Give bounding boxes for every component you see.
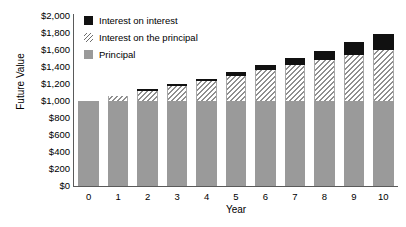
bar-group [373,16,394,186]
bar-segment-interest-on-interest [344,42,365,55]
stacked-bar[interactable] [196,79,217,186]
bar-segment-principal [137,101,158,186]
bar-segment-principal [78,101,99,186]
y-axis-tick-label: $1,400 [22,62,70,72]
y-axis-tick-label: $1,200 [22,79,70,89]
bar-segment-principal [226,101,247,186]
bar-segment-principal [373,101,394,186]
bar-segment-interest-on-principal [255,70,276,101]
y-axis-tick-label: $2,000 [22,11,70,21]
stacked-bar[interactable] [137,89,158,186]
bar-segment-interest-on-principal [314,60,335,101]
y-axis-tick-label: $400 [22,147,70,157]
bar-segment-principal [285,101,306,186]
bar-group [285,16,306,186]
bar-segment-principal [108,101,129,186]
legend-swatch-interest-on-interest [84,16,93,25]
bar-segment-principal [196,101,217,186]
x-axis-tick-label: 9 [351,190,356,203]
y-axis-tick-labels: $0$200$400$600$800$1,000$1,200$1,400$1,6… [22,16,70,186]
x-axis-tick-label: 2 [145,190,150,203]
legend-item: Principal [84,46,198,63]
bar-segment-principal [314,101,335,186]
legend-item-label: Interest on interest [99,16,178,26]
bar-segment-interest-on-principal [344,55,365,101]
bar-segment-interest-on-principal [196,81,217,101]
bar-segment-interest-on-principal [373,50,394,101]
y-axis-tick-label: $1,000 [22,96,70,106]
legend-item-label: Interest on the principal [99,33,198,43]
bar-group [255,16,276,186]
bar-group [314,16,335,186]
bar-segment-interest-on-principal [167,86,188,101]
x-axis-line [73,186,398,187]
compound-interest-chart: Future Value $0$200$400$600$800$1,000$1,… [0,0,406,227]
x-axis-tick-label: 1 [116,190,121,203]
x-axis-tick-label: 10 [378,190,389,203]
bar-group [196,16,217,186]
x-axis-tick-label: 3 [174,190,179,203]
bar-segment-interest-on-principal [137,91,158,101]
x-axis-tick-label: 5 [233,190,238,203]
bar-segment-interest-on-interest [285,58,306,65]
legend-swatch-principal [84,50,93,59]
y-axis-tick-label: $1,800 [22,28,70,38]
legend-swatch-interest-on-principal [84,33,93,42]
bar-segment-interest-on-interest [373,34,394,50]
legend-item: Interest on the principal [84,29,198,46]
y-axis-tick-label: $1,600 [22,45,70,55]
y-axis-tick-label: $200 [22,164,70,174]
x-axis-title: Year [74,204,398,215]
x-axis-tick-label: 0 [86,190,91,203]
stacked-bar[interactable] [344,42,365,186]
y-axis-tick-label: $0 [22,181,70,191]
x-axis-tick-labels: 012345678910 [74,190,398,204]
stacked-bar[interactable] [314,51,335,186]
bar-segment-principal [344,101,365,186]
x-axis-tick-label: 6 [263,190,268,203]
stacked-bar[interactable] [108,96,129,186]
bar-segment-interest-on-interest [314,51,335,61]
stacked-bar[interactable] [226,72,247,186]
bar-group [344,16,365,186]
x-axis-tick-label: 7 [292,190,297,203]
bar-segment-principal [167,101,188,186]
bar-segment-interest-on-principal [285,65,306,101]
y-axis-tick-label: $600 [22,130,70,140]
bar-group [226,16,247,186]
bar-segment-principal [255,101,276,186]
chart-legend: Interest on interestInterest on the prin… [84,12,198,63]
y-axis-tick-label: $800 [22,113,70,123]
stacked-bar[interactable] [167,84,188,186]
bar-segment-interest-on-principal [226,76,247,102]
stacked-bar[interactable] [285,58,306,186]
legend-item: Interest on interest [84,12,198,29]
stacked-bar[interactable] [373,34,394,186]
x-axis-tick-label: 8 [322,190,327,203]
legend-item-label: Principal [99,50,135,60]
x-axis-tick-label: 4 [204,190,209,203]
stacked-bar[interactable] [78,101,99,186]
stacked-bar[interactable] [255,65,276,186]
